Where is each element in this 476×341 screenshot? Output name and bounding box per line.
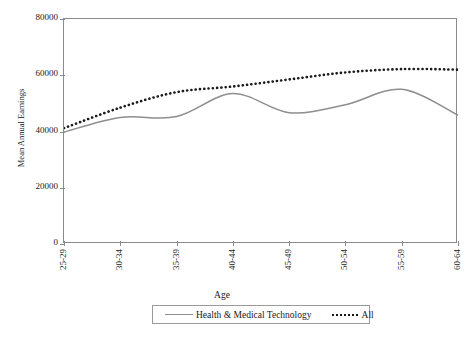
legend-label-1: All xyxy=(362,310,374,320)
y-axis-tick-label: 40000 xyxy=(14,126,58,135)
x-axis-tick-label: 45-49 xyxy=(282,249,294,289)
x-axis-tick-labels: 25-2930-3435-3940-4445-4950-5455-5960-64 xyxy=(0,247,476,292)
x-axis-tick-label: 25-29 xyxy=(57,249,69,289)
x-axis-tick-label: 50-54 xyxy=(338,249,350,289)
x-axis-tick-label: 30-34 xyxy=(113,249,125,289)
chart-legend: Health & Medical Technology All xyxy=(152,305,370,324)
x-axis-title: Age xyxy=(0,290,476,300)
y-axis-tick-label: 20000 xyxy=(14,182,58,191)
y-axis-tick-mark xyxy=(60,19,65,20)
legend-item-all: All xyxy=(312,310,374,320)
x-axis-tick-label: 35-39 xyxy=(170,249,182,289)
x-axis-tick-mark xyxy=(402,241,403,246)
y-axis-tick-label: 0 xyxy=(14,238,58,247)
y-axis-tick-mark xyxy=(60,75,65,76)
x-axis-tick-label: 40-44 xyxy=(226,249,238,289)
plot-area xyxy=(63,18,457,243)
chart-figure: Mean Annual Earnings 0200004000060000800… xyxy=(0,0,476,341)
x-axis-tick-mark xyxy=(64,241,65,246)
x-axis-tick-mark xyxy=(120,241,121,246)
x-axis-tick-mark xyxy=(458,241,459,246)
y-axis-tick-label: 80000 xyxy=(14,13,58,22)
x-axis-tick-mark xyxy=(177,241,178,246)
x-axis-tick-mark xyxy=(233,241,234,246)
x-axis-tick-mark xyxy=(289,241,290,246)
legend-item-health-medical-technology: Health & Medical Technology xyxy=(153,310,312,320)
y-axis-tick-label: 60000 xyxy=(14,69,58,78)
solid-line-swatch-icon xyxy=(165,314,193,315)
series-line-health-medical-technology xyxy=(64,89,458,132)
series-line-all xyxy=(64,69,458,128)
y-axis-tick-mark xyxy=(60,188,65,189)
x-axis-tick-label: 60-64 xyxy=(451,249,463,289)
series-canvas xyxy=(64,19,458,244)
x-axis-tick-label: 55-59 xyxy=(395,249,407,289)
x-axis-title-label: Age xyxy=(214,290,230,300)
y-axis-tick-mark xyxy=(60,132,65,133)
legend-label-0: Health & Medical Technology xyxy=(196,310,312,320)
x-axis-tick-mark xyxy=(345,241,346,246)
dotted-line-swatch-icon xyxy=(332,314,358,316)
